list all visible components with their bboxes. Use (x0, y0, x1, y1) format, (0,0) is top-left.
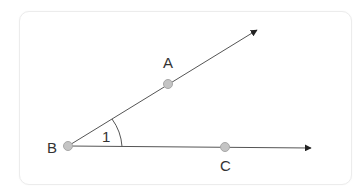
label-c: C (220, 157, 231, 174)
point-b (64, 142, 73, 151)
angle-arc (112, 119, 122, 147)
ray-ba (68, 30, 257, 146)
ray-bc (68, 146, 311, 148)
angle-diagram: A B C 1 (0, 0, 364, 193)
angle-label: 1 (102, 128, 110, 145)
label-b: B (47, 139, 57, 156)
label-a: A (163, 54, 173, 71)
point-a (164, 80, 173, 89)
point-c (221, 143, 230, 152)
